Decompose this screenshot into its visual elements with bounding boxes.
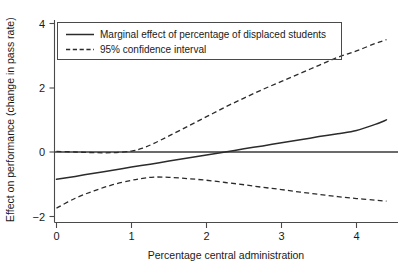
y-tick-label-minus-2: −2	[32, 211, 45, 223]
legend-label-confidence-interval: 95% confidence interval	[100, 44, 206, 55]
legend-label-marginal-effect: Marginal effect of percentage of displac…	[100, 29, 326, 40]
x-axis-tick-labels: 0 1 2 3 4	[53, 230, 359, 242]
ci-lower-bound-curve	[57, 177, 387, 208]
x-tick-label-0: 0	[53, 230, 59, 242]
x-tick-label-3: 3	[278, 230, 284, 242]
y-tick-label-2: 2	[39, 82, 45, 94]
y-tick-label-4: 4	[39, 18, 45, 30]
x-axis-title: Percentage central administration	[148, 249, 305, 261]
marginal-effect-line-chart: Effect on performance (change in pass ra…	[0, 0, 406, 273]
y-axis-title: Effect on performance (change in pass ra…	[4, 17, 16, 222]
ci-upper-bound-curve	[57, 40, 387, 153]
x-tick-label-2: 2	[203, 230, 209, 242]
marginal-effect-curve	[57, 120, 387, 179]
x-axis-ticks	[57, 223, 357, 229]
y-tick-label-0: 0	[39, 146, 45, 158]
chart-legend: Marginal effect of percentage of displac…	[58, 23, 342, 60]
x-tick-label-1: 1	[128, 230, 134, 242]
chart-figure: Effect on performance (change in pass ra…	[0, 0, 406, 273]
plot-area	[55, 40, 399, 209]
x-tick-label-4: 4	[353, 230, 359, 242]
y-axis-ticks	[50, 24, 55, 217]
y-axis-tick-labels: 4 2 0 −2	[32, 18, 45, 223]
